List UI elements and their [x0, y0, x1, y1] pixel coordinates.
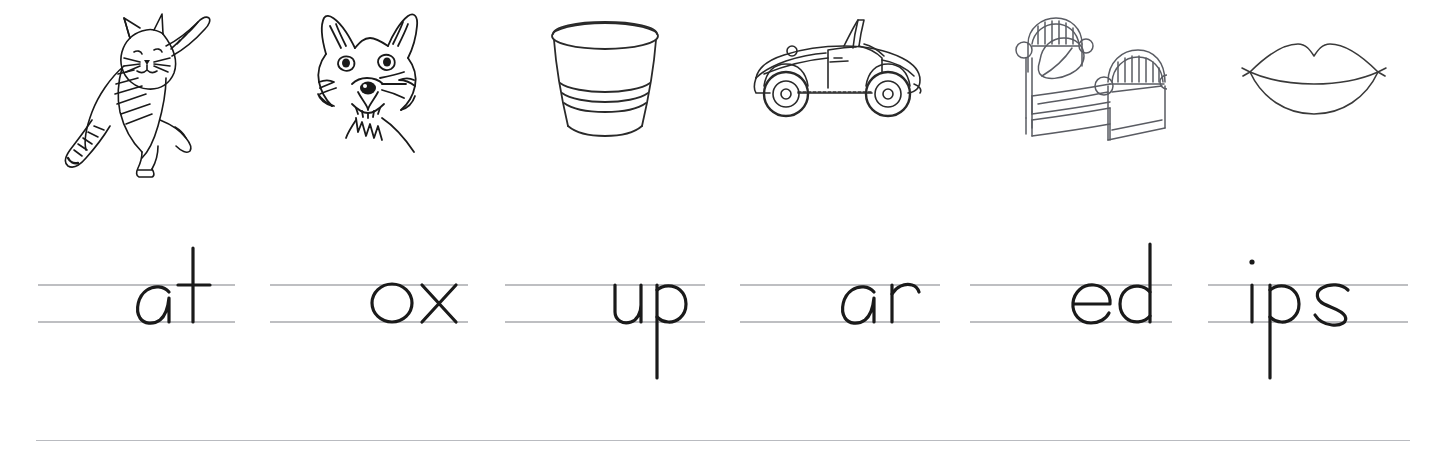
ruled-lines-up [505, 285, 705, 322]
lips-illustration [1238, 0, 1390, 180]
picture-cell-lips: lips [1238, 0, 1390, 200]
word-row: at ox [0, 200, 1445, 400]
footer-separator-rule [36, 440, 1410, 441]
word-cell-ar: ar [740, 200, 940, 400]
bed-illustration [1002, 0, 1167, 180]
letters-ips [1249, 259, 1348, 378]
handwriting-group-ed [970, 200, 1172, 400]
handwriting-group-at [38, 200, 235, 400]
ruled-lines-ar [740, 285, 940, 322]
word-cell-at: at [38, 200, 235, 400]
cup-illustration [538, 0, 673, 180]
word-cell-ips: ips [1208, 200, 1408, 400]
fox-illustration [300, 0, 440, 180]
picture-row: cat [0, 0, 1445, 200]
word-cell-ox: ox [270, 200, 468, 400]
handwriting-group-ar [740, 200, 940, 400]
word-cell-ed: ed [970, 200, 1172, 400]
picture-cell-car: car [748, 0, 926, 200]
letters-ed [1073, 244, 1150, 323]
ruled-lines-ips [1208, 285, 1408, 322]
handwriting-group-ox [270, 200, 468, 400]
word-cell-up: up [505, 200, 705, 400]
picture-cell-bed: bed [1002, 0, 1167, 200]
letters-up [615, 285, 686, 378]
picture-cell-cat: cat [62, 0, 212, 200]
car-illustration [748, 0, 926, 180]
handwriting-group-ips [1208, 200, 1408, 400]
handwriting-group-up [505, 200, 705, 400]
worksheet-page: cat [0, 0, 1445, 451]
picture-cell-fox: fox [300, 0, 440, 200]
ruled-lines-ed [970, 285, 1172, 322]
letters-ox [372, 284, 456, 322]
cat-illustration [62, 0, 212, 180]
picture-cell-cup: cup [538, 0, 673, 200]
letters-ar [843, 284, 919, 323]
ruled-lines-at [38, 285, 235, 322]
